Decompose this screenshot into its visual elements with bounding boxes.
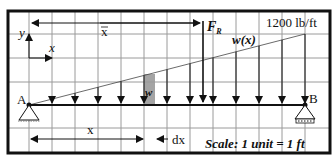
axis-x-label: x — [48, 40, 55, 55]
scale-label: Scale: 1 unit = 1 ft — [205, 136, 305, 151]
beam-diagram: 1200 lb/ft FR w(x) x y x w A B x dx Scal… — [0, 0, 336, 160]
distributed-load-arrows — [52, 34, 305, 103]
resultant-label-sub: R — [215, 27, 222, 36]
xbar-label: x — [101, 24, 108, 39]
dx-label: dx — [172, 132, 186, 147]
load-intensity-label: 1200 lb/ft — [266, 15, 317, 30]
resultant-label-main: F — [206, 19, 217, 34]
resultant-label: FR — [206, 19, 222, 36]
load-function-label: w(x) — [232, 32, 256, 47]
axis-y-label: y — [17, 25, 25, 40]
support-b-label: B — [309, 91, 318, 106]
support-a-label: A — [17, 92, 27, 107]
pin-triangle-icon — [19, 105, 39, 120]
strip-label: w — [145, 86, 153, 98]
roller-triangle-icon — [295, 105, 315, 119]
x-dimension-label: x — [87, 122, 94, 137]
